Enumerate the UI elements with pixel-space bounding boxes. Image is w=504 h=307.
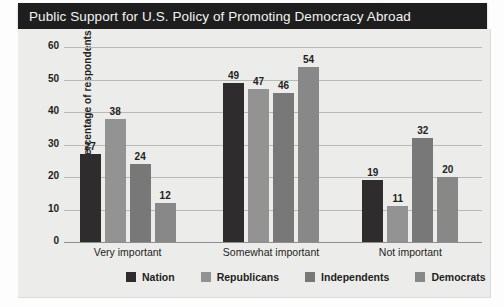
plot-area: 010203040506027382412Very important49474… (64, 47, 482, 242)
legend-label: Republicans (217, 271, 279, 283)
bar: 47 (248, 89, 269, 242)
legend-label: Nation (142, 271, 175, 283)
bar: 24 (130, 164, 151, 242)
bar-value-label: 32 (417, 125, 428, 136)
legend-swatch (126, 272, 136, 282)
bar-value-label: 19 (367, 167, 378, 178)
legend-label: Democrats (431, 271, 485, 283)
bar-value-label: 20 (442, 164, 453, 175)
legend-item[interactable]: Democrats (415, 271, 485, 283)
chart-legend: NationRepublicansIndependentsDemocrats (64, 269, 482, 285)
bar-value-label: 27 (85, 141, 96, 152)
x-axis-category-label: Somewhat important (195, 246, 347, 258)
x-axis-category-label: Not important (334, 246, 486, 258)
bar-value-label: 11 (393, 193, 404, 204)
bar-group: 27382412Very important (80, 47, 176, 242)
bar-value-label: 24 (135, 151, 146, 162)
y-axis-tick-label: 10 (19, 203, 59, 214)
bar-value-label: 54 (303, 54, 314, 65)
legend-swatch (305, 272, 315, 282)
bar-value-label: 49 (228, 70, 239, 81)
bar: 11 (387, 206, 408, 242)
y-axis-tick-label: 40 (19, 105, 59, 116)
bar-value-label: 47 (253, 76, 264, 87)
y-axis-tick-label: 60 (19, 40, 59, 51)
bar-value-label: 38 (110, 106, 121, 117)
legend-item[interactable]: Nation (126, 271, 175, 283)
bar: 20 (437, 177, 458, 242)
bar: 54 (298, 67, 319, 243)
bar-group: 49474654Somewhat important (223, 47, 319, 242)
bar: 46 (273, 93, 294, 243)
bar-value-label: 46 (278, 80, 289, 91)
bar: 19 (362, 180, 383, 242)
legend-item[interactable]: Independents (305, 271, 389, 283)
y-axis-tick-label: 30 (19, 138, 59, 149)
bar: 32 (412, 138, 433, 242)
chart-figure: Public Support for U.S. Policy of Promot… (0, 0, 504, 307)
bar-value-label: 12 (160, 190, 171, 201)
chart-panel: Percentage of respondents 01020304050602… (18, 29, 491, 298)
legend-item[interactable]: Republicans (201, 271, 279, 283)
bar-group: 19113220Not important (362, 47, 458, 242)
axis-baseline (64, 242, 482, 243)
bar: 12 (155, 203, 176, 242)
page-title: Public Support for U.S. Policy of Promot… (18, 9, 411, 24)
legend-label: Independents (321, 271, 389, 283)
x-axis-category-label: Very important (52, 246, 204, 258)
bar: 27 (80, 154, 101, 242)
legend-swatch (415, 272, 425, 282)
y-axis-tick-label: 0 (19, 235, 59, 246)
bar: 49 (223, 83, 244, 242)
y-axis-tick-label: 20 (19, 170, 59, 181)
y-axis-tick-label: 50 (19, 73, 59, 84)
legend-swatch (201, 272, 211, 282)
bar: 38 (105, 119, 126, 243)
